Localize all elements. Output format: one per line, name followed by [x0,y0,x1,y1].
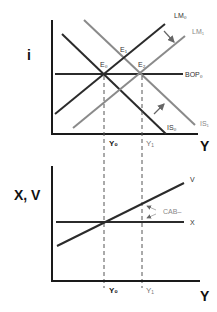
top-y1-label: Y₁ [146,139,154,148]
bottom-panel: X, V Y X V CAB– Y₀ Y₁ [14,166,210,304]
is0-label: IS₀ [167,124,177,131]
x-label: X [190,219,195,226]
is1-label: IS₁ [200,120,210,127]
lm0-label: LM₀ [174,12,187,19]
bottom-y0-label: Y₀ [109,286,118,295]
lm-shift-arrow-icon [164,31,174,42]
lm1-label: LM₁ [192,28,205,35]
cab-arrow-down-icon [147,214,156,218]
lm0-line [55,24,165,114]
bop0-label: BOP₀ [185,71,203,78]
v-label: V [190,176,195,183]
cab-arrow-up-icon [147,206,156,210]
bottom-y1-label: Y₁ [146,286,154,295]
top-y-axis-label: i [27,47,31,63]
lm1-line [73,36,185,128]
e1-label: E₁ [120,46,128,53]
bottom-y-axis-label: X, V [14,187,41,203]
top-y0-label: Y₀ [109,139,118,148]
bottom-x-axis-label: Y [200,288,210,304]
top-x-axis-label: Y [200,138,210,154]
is-shift-arrow-icon [154,104,164,114]
e0-label: E₀ [100,61,108,68]
cab-annotation: CAB– [163,208,181,215]
top-panel: i Y BOP₀ IS₀ IS₁ LM₀ LM₁ E₀ E₁ E₂ Y₀ Y₁ [27,12,210,154]
e2-label: E₂ [138,61,146,68]
is-lm-bop-diagram: i Y BOP₀ IS₀ IS₁ LM₀ LM₁ E₀ E₁ E₂ Y₀ Y₁ … [0,0,217,312]
